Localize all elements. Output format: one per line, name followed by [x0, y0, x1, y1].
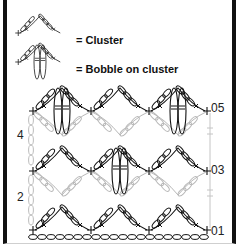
- row-label-3: 03: [211, 163, 224, 177]
- row-label-5: 05: [211, 101, 224, 115]
- row-label-1: 01: [211, 224, 224, 238]
- row-1: [29, 204, 211, 234]
- row-label-4: 4: [17, 128, 24, 142]
- row-label-2: 2: [17, 190, 24, 204]
- legend-cluster-symbol: [15, 13, 60, 36]
- legend-bobble-symbol: [15, 42, 60, 79]
- legend-cluster-label: = Cluster: [76, 34, 123, 46]
- foundation-chain: [29, 235, 209, 240]
- row-3: [29, 145, 211, 194]
- row-5: [29, 85, 211, 134]
- legend-bobble-label: = Bobble on cluster: [76, 63, 178, 75]
